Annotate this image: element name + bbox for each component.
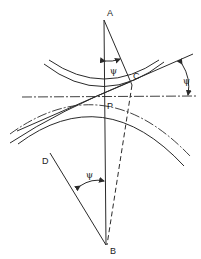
- label-P: P: [107, 101, 113, 111]
- label-D: D: [42, 156, 49, 166]
- top-angle-arc: [105, 59, 120, 61]
- gear-geometry-diagram: A C P D B ψ ψ ψ: [0, 0, 201, 259]
- common-tangent-line: [22, 96, 197, 97]
- label-C: C: [133, 71, 140, 81]
- label-A: A: [107, 8, 113, 18]
- label-psi-top: ψ: [110, 66, 117, 76]
- label-psi-right: ψ: [183, 76, 190, 86]
- label-B: B: [110, 246, 116, 256]
- bottom-angle-arc: [80, 180, 104, 186]
- line-DB: [50, 153, 106, 245]
- line-AC: [104, 20, 132, 85]
- lower-gear-base-arc: [10, 82, 130, 143]
- lower-gear-pitch-arc: [10, 105, 190, 156]
- centre-line-AB: [104, 20, 106, 245]
- label-psi-bottom: ψ: [86, 170, 93, 180]
